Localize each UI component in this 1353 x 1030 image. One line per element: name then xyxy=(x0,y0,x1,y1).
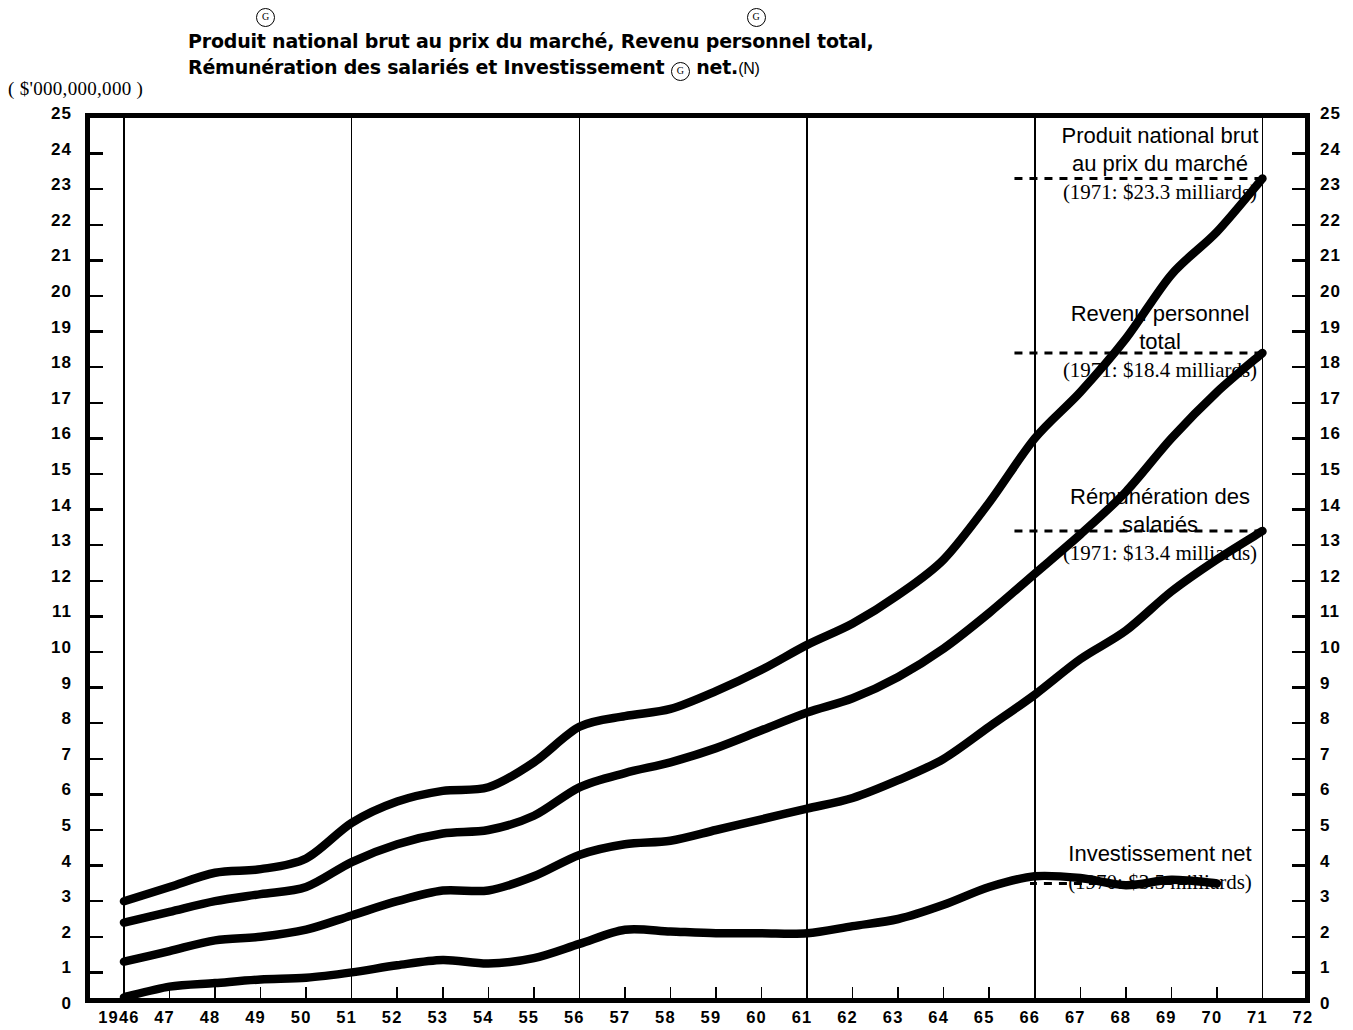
y-tick-left-15 xyxy=(90,473,103,476)
y-axis-label-left-4: 4 xyxy=(30,853,72,870)
x-axis-label-1972: 72 xyxy=(1293,1008,1314,1027)
x-tick-1964 xyxy=(943,987,945,998)
y-tick-left-11 xyxy=(90,615,103,618)
y-axis-label-right-19: 19 xyxy=(1320,319,1341,336)
y-axis-label-right-10: 10 xyxy=(1320,639,1341,656)
x-tick-1954 xyxy=(488,987,490,998)
annotation-investissement-label: Investissement net xyxy=(1010,840,1310,868)
x-axis-label-1963: 63 xyxy=(883,1008,904,1027)
y-tick-right-22 xyxy=(1292,224,1305,227)
x-axis-label-1959: 59 xyxy=(701,1008,722,1027)
y-axis-label-right-16: 16 xyxy=(1320,425,1341,442)
x-axis-label-1949: 49 xyxy=(245,1008,266,1027)
y-axis-label-right-9: 9 xyxy=(1320,675,1330,692)
y-tick-left-22 xyxy=(90,224,103,227)
y-axis-label-right-15: 15 xyxy=(1320,461,1341,478)
x-tick-1960 xyxy=(761,987,763,998)
x-axis-label-1946: 1946 xyxy=(98,1008,140,1027)
y-axis-label-right-14: 14 xyxy=(1320,497,1341,514)
y-axis-label-right-13: 13 xyxy=(1320,532,1341,549)
x-axis-label-1953: 53 xyxy=(427,1008,448,1027)
y-axis-label-left-8: 8 xyxy=(30,710,72,727)
y-tick-right-15 xyxy=(1292,473,1305,476)
x-axis-label-1966: 66 xyxy=(1019,1008,1040,1027)
y-tick-left-10 xyxy=(90,651,103,654)
y-tick-left-4 xyxy=(90,864,103,867)
y-axis-label-left-16: 16 xyxy=(30,425,72,442)
y-axis-label-right-8: 8 xyxy=(1320,710,1330,727)
x-axis-label-1958: 58 xyxy=(655,1008,676,1027)
y-axis-label-right-25: 25 xyxy=(1320,105,1341,122)
chart-title-block: G Produit national brut au prix du march… xyxy=(188,28,968,82)
y-axis-label-left-9: 9 xyxy=(30,675,72,692)
x-axis-label-1957: 57 xyxy=(610,1008,631,1027)
x-tick-1965 xyxy=(988,987,990,998)
x-axis-label-1960: 60 xyxy=(746,1008,767,1027)
x-tick-1959 xyxy=(715,987,717,998)
annotation-remuneration: Rémunération des salariés (1971: $13.4 m… xyxy=(1010,483,1310,567)
y-axis-label-left-18: 18 xyxy=(30,354,72,371)
y-axis-label-right-22: 22 xyxy=(1320,212,1341,229)
y-tick-right-6 xyxy=(1292,793,1305,796)
x-axis-label-1961: 61 xyxy=(792,1008,813,1027)
series-line-revenu xyxy=(124,353,1262,923)
y-axis-label-left-17: 17 xyxy=(30,390,72,407)
y-tick-left-14 xyxy=(90,508,103,511)
x-axis-label-1964: 64 xyxy=(928,1008,949,1027)
x-axis-label-1968: 68 xyxy=(1110,1008,1131,1027)
title-text-2a: Rémunération des salariés et Investissem… xyxy=(188,56,664,78)
x-tick-1950 xyxy=(305,987,307,998)
y-axis-units-label: ( $'000,000,000 ) xyxy=(8,78,143,100)
y-axis-label-right-11: 11 xyxy=(1320,603,1340,620)
y-tick-right-1 xyxy=(1292,971,1305,974)
y-axis-label-left-15: 15 xyxy=(30,461,72,478)
y-tick-left-6 xyxy=(90,793,103,796)
x-tick-1968 xyxy=(1125,987,1127,998)
y-tick-left-17 xyxy=(90,402,103,405)
y-axis-label-right-2: 2 xyxy=(1320,924,1330,941)
gridline-1961 xyxy=(806,118,808,998)
y-tick-left-2 xyxy=(90,936,103,939)
gridline-1951 xyxy=(351,118,353,998)
y-axis-label-left-10: 10 xyxy=(30,639,72,656)
y-tick-right-17 xyxy=(1292,402,1305,405)
y-axis-label-right-7: 7 xyxy=(1320,746,1330,763)
y-axis-label-left-22: 22 xyxy=(30,212,72,229)
annotation-revenu-label: Revenu personnel total xyxy=(1010,300,1310,356)
y-tick-right-7 xyxy=(1292,758,1305,761)
x-axis-label-1948: 48 xyxy=(200,1008,221,1027)
y-tick-left-7 xyxy=(90,758,103,761)
title-text-1: Produit national brut au prix du marché,… xyxy=(188,30,874,52)
y-tick-left-3 xyxy=(90,900,103,903)
x-axis-label-1962: 62 xyxy=(837,1008,858,1027)
y-axis-label-right-21: 21 xyxy=(1320,247,1341,264)
y-tick-right-20 xyxy=(1292,295,1305,298)
x-tick-1955 xyxy=(533,987,535,998)
y-axis-label-left-6: 6 xyxy=(30,781,72,798)
footnote-g-icon-1: G xyxy=(256,8,275,27)
chart-title-line-2: Rémunération des salariés et Investissem… xyxy=(188,54,968,82)
x-tick-1952 xyxy=(396,987,398,998)
y-tick-left-21 xyxy=(90,259,103,262)
annotation-remuneration-label: Rémunération des salariés xyxy=(1010,483,1310,539)
y-axis-label-left-13: 13 xyxy=(30,532,72,549)
y-tick-right-2 xyxy=(1292,936,1305,939)
y-tick-right-11 xyxy=(1292,615,1305,618)
y-tick-left-8 xyxy=(90,722,103,725)
y-axis-label-left-7: 7 xyxy=(30,746,72,763)
y-axis-label-left-11: 11 xyxy=(30,603,72,620)
x-axis-label-1955: 55 xyxy=(518,1008,539,1027)
x-axis-label-1970: 70 xyxy=(1202,1008,1223,1027)
x-tick-1948 xyxy=(214,987,216,998)
annotation-remuneration-value: (1971: $13.4 milliards) xyxy=(1010,539,1310,567)
y-axis-label-left-2: 2 xyxy=(30,924,72,941)
x-axis-label-1950: 50 xyxy=(291,1008,312,1027)
x-axis-label-1971: 71 xyxy=(1247,1008,1268,1027)
y-axis-label-left-23: 23 xyxy=(30,176,72,193)
y-tick-right-21 xyxy=(1292,259,1305,262)
x-tick-1957 xyxy=(624,987,626,998)
y-tick-right-8 xyxy=(1292,722,1305,725)
y-axis-label-right-5: 5 xyxy=(1320,817,1330,834)
y-axis-label-right-1: 1 xyxy=(1320,959,1330,976)
y-axis-label-right-18: 18 xyxy=(1320,354,1341,371)
